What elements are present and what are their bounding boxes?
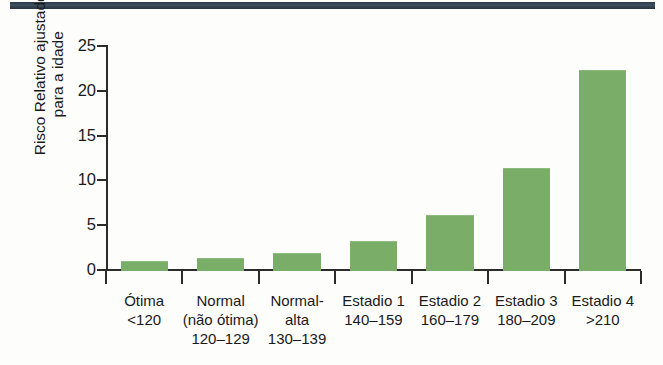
y-tick-mark — [97, 90, 107, 92]
bar — [426, 215, 473, 271]
y-tick-mark — [97, 224, 107, 226]
bar-chart-plot: Risco Relativo ajustado para a idade 051… — [0, 0, 663, 365]
x-tick-mark — [411, 271, 413, 284]
x-axis-category-label-line: >210 — [556, 310, 650, 329]
y-tick-mark — [97, 179, 107, 181]
y-axis-line — [106, 45, 108, 271]
x-axis-category-label: Estadio 4>210 — [556, 291, 650, 329]
bar — [503, 168, 550, 271]
y-tick-label: 20 — [40, 82, 96, 99]
x-tick-mark — [258, 271, 260, 284]
bar — [197, 258, 244, 271]
bar — [273, 253, 320, 271]
bar — [121, 261, 168, 271]
figure-container: Risco Relativo ajustado para a idade 051… — [0, 0, 663, 365]
x-tick-mark — [105, 271, 107, 284]
x-axis-category-label-line: 130–139 — [250, 329, 344, 348]
x-tick-mark — [181, 271, 183, 284]
x-tick-mark — [487, 271, 489, 284]
bar — [579, 70, 626, 271]
x-axis-category-label-line: Estadio 4 — [556, 291, 650, 310]
x-tick-mark — [640, 271, 642, 284]
y-tick-mark — [97, 135, 107, 137]
bar — [350, 241, 397, 271]
x-tick-mark — [564, 271, 566, 284]
y-tick-label: 10 — [40, 171, 96, 188]
x-tick-mark — [334, 271, 336, 284]
y-tick-label: 15 — [40, 127, 96, 144]
y-tick-label: 25 — [40, 37, 96, 54]
y-tick-label: 0 — [40, 261, 96, 278]
y-tick-label: 5 — [40, 216, 96, 233]
y-tick-mark — [97, 45, 107, 47]
